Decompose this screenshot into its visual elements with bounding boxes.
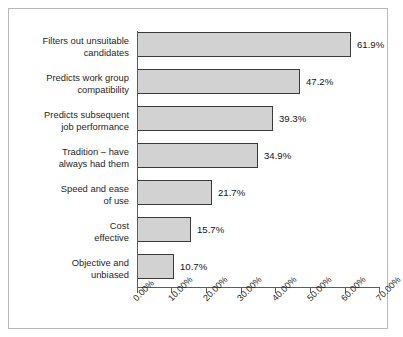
bar-value-label: 34.9%	[264, 143, 291, 168]
x-axis-tick-label: 0.00%	[131, 278, 156, 303]
bar[interactable]	[137, 69, 300, 94]
category-label: Predicts subsequent job performance	[17, 109, 129, 132]
category-label: Filters out unsuitable candidates	[17, 35, 129, 58]
category-label: Objective and unbiased	[17, 257, 129, 280]
bar[interactable]	[137, 143, 258, 168]
chart-frame: Filters out unsuitable candidates Predic…	[8, 8, 388, 329]
category-axis-labels: Filters out unsuitable candidates Predic…	[15, 9, 129, 279]
bar-value-label: 61.9%	[357, 32, 384, 57]
bar[interactable]	[137, 254, 174, 279]
bar-value-label: 15.7%	[197, 217, 224, 242]
bar[interactable]	[137, 32, 351, 57]
bar[interactable]	[137, 180, 212, 205]
bar-value-label: 21.7%	[218, 180, 245, 205]
bar-series: 61.9% 47.2% 39.3% 34.9% 21.7% 15.7% 10.7…	[129, 9, 389, 279]
category-label: Speed and ease of use	[17, 183, 129, 206]
category-label: Tradition – have always had them	[17, 146, 129, 169]
bar-value-label: 10.7%	[180, 254, 207, 279]
bar[interactable]	[137, 217, 191, 242]
category-label: Predicts work group compatibility	[17, 72, 129, 95]
bar-value-label: 39.3%	[279, 106, 306, 131]
category-label: Cost effective	[17, 220, 129, 243]
y-axis-line	[137, 31, 138, 287]
bar-value-label: 47.2%	[306, 69, 333, 94]
bar-chart: Filters out unsuitable candidates Predic…	[9, 9, 389, 330]
bar[interactable]	[137, 106, 273, 131]
